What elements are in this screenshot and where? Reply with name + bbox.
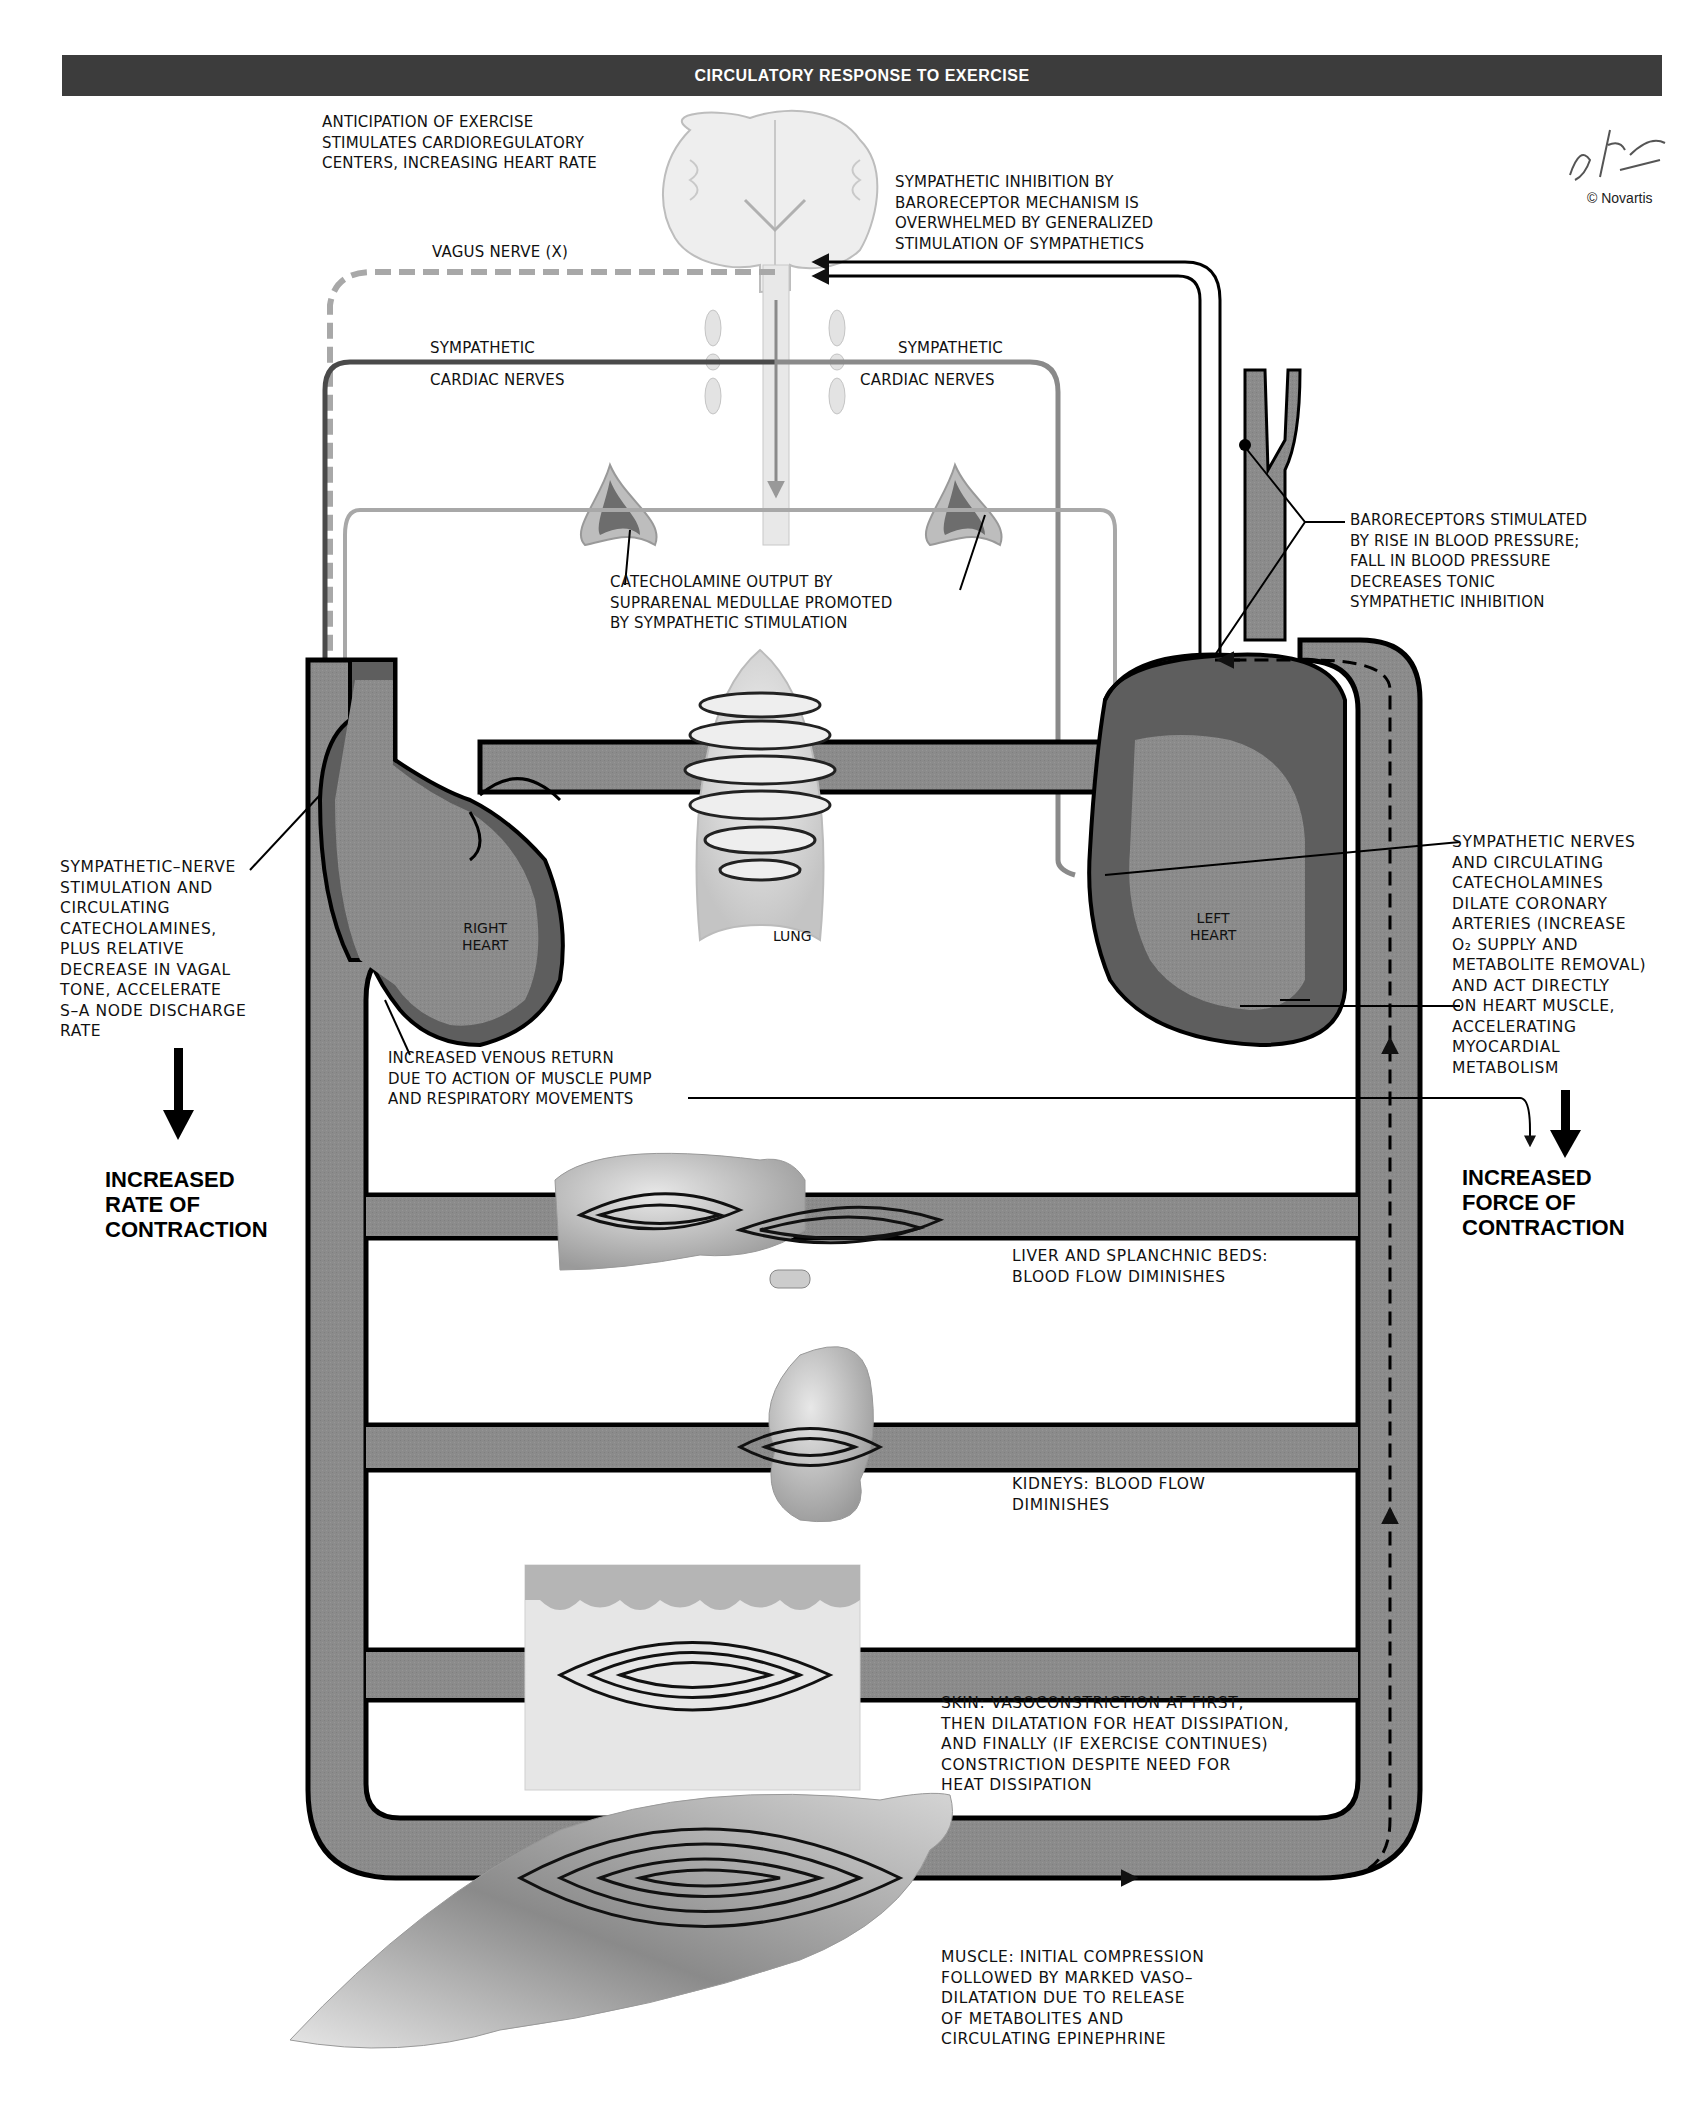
label-sa-node: SYMPATHETIC–NERVE STIMULATION AND CIRCUL… [60,857,246,1042]
label-sympathetic-right: SYMPATHETIC [898,338,1003,359]
liver-illustration [555,1153,940,1288]
label-skin: SKIN: VASOCONSTRICTION AT FIRST, THEN DI… [941,1693,1289,1796]
label-cardiac-nerves-left: CARDIAC NERVES [430,370,565,391]
label-coronary: SYMPATHETIC NERVES AND CIRCULATING CATEC… [1452,832,1646,1078]
label-sympathetic-left: SYMPATHETIC [430,338,535,359]
label-muscle: MUSCLE: INITIAL COMPRESSION FOLLOWED BY … [941,1947,1204,2050]
page-title-bar: CIRCULATORY RESPONSE TO EXERCISE [62,55,1662,96]
page-title: CIRCULATORY RESPONSE TO EXERCISE [694,67,1029,85]
label-venous-return: INCREASED VENOUS RETURN DUE TO ACTION OF… [388,1048,652,1110]
label-anticipation: ANTICIPATION OF EXERCISE STIMULATES CARD… [322,112,597,174]
circulation-diagram [0,0,1681,2122]
left-heart-illustration [1089,655,1345,1045]
label-liver: LIVER AND SPLANCHNIC BEDS: BLOOD FLOW DI… [1012,1246,1268,1287]
lung-illustration [685,650,835,940]
suprarenal-glands [581,465,1002,545]
outcome-rate-of-contraction: INCREASED RATE OF CONTRACTION [105,1167,268,1242]
copyright: © Novartis [1587,190,1653,206]
label-cardiac-nerves-right: CARDIAC NERVES [860,370,995,391]
label-sympathetic-inhibition: SYMPATHETIC INHIBITION BY BARORECEPTOR M… [895,172,1153,254]
label-kidneys: KIDNEYS: BLOOD FLOW DIMINISHES [1012,1474,1205,1515]
label-right-heart: RIGHT HEART [462,920,508,954]
label-baroreceptors: BARORECEPTORS STIMULATED BY RISE IN BLOO… [1350,510,1587,613]
label-lung: LUNG [773,928,812,945]
outcome-force-of-contraction: INCREASED FORCE OF CONTRACTION [1462,1165,1625,1240]
label-catecholamine-output: CATECHOLAMINE OUTPUT BY SUPRARENAL MEDUL… [610,572,892,634]
artist-signature-icon [1560,115,1670,185]
label-vagus-nerve: VAGUS NERVE (X) [432,242,568,263]
label-left-heart: LEFT HEART [1190,910,1236,944]
skin-illustration [525,1565,860,1790]
